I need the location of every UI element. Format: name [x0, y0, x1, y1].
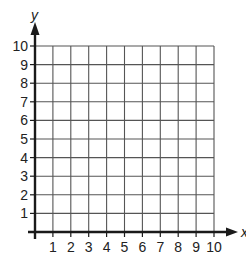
y-axis-arrow-icon: [31, 22, 40, 35]
y-tick-label: 2: [20, 187, 28, 203]
x-tick-label: 8: [174, 239, 182, 255]
x-tick-label: 1: [49, 239, 57, 255]
x-tick-label: 3: [85, 239, 93, 255]
x-axis-label: x: [240, 224, 246, 240]
axes: [28, 22, 238, 239]
x-tick-label: 5: [121, 239, 129, 255]
y-tick-label: 10: [12, 38, 28, 54]
x-tick-label: 2: [67, 239, 75, 255]
x-axis-arrow-icon: [226, 228, 238, 237]
y-tick-label: 9: [20, 57, 28, 73]
x-tick-label: 7: [156, 239, 164, 255]
y-tick-label: 8: [20, 75, 28, 91]
y-tick-label: 7: [20, 94, 28, 110]
grid-lines: [35, 46, 214, 232]
y-tick-label: 4: [20, 150, 28, 166]
x-tick-label: 10: [206, 239, 222, 255]
x-tick-label: 6: [139, 239, 147, 255]
y-tick-label: 1: [20, 205, 28, 221]
y-tick-label: 3: [20, 168, 28, 184]
coordinate-grid: 12345678910 12345678910 x y: [0, 0, 246, 276]
x-tick-labels: 12345678910: [49, 239, 222, 255]
y-tick-label: 6: [20, 112, 28, 128]
y-tick-labels: 12345678910: [12, 38, 28, 221]
y-tick-label: 5: [20, 131, 28, 147]
x-tick-label: 4: [103, 239, 111, 255]
x-tick-label: 9: [192, 239, 200, 255]
y-axis-label: y: [30, 7, 39, 23]
